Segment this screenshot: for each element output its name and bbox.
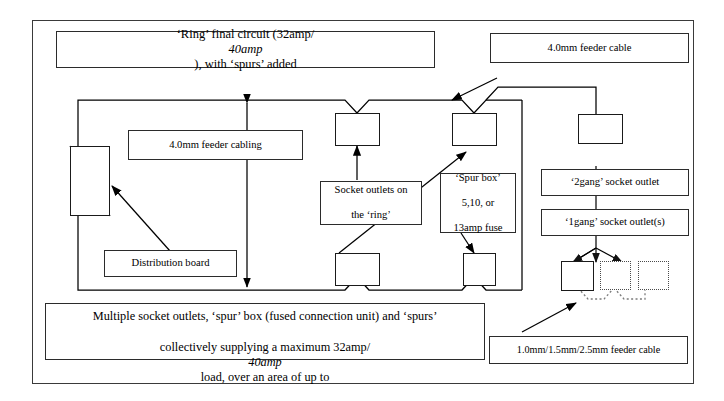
leader-distribution-board	[112, 186, 170, 251]
one-gang-outlet-node[interactable]	[561, 261, 594, 291]
title-text-a: ‘Ring’ final circuit (32amp/	[173, 27, 319, 42]
label-distribution-board: Distribution board	[104, 250, 237, 277]
socket-outlet-node-top-2[interactable]	[452, 113, 497, 146]
label-one-gang-outlet-text: ‘1gang’ socket outlet(s)	[561, 216, 669, 229]
label-one-gang-outlet: ‘1gang’ socket outlet(s)	[541, 209, 689, 236]
label-feeder-cable-top-text: 4.0mm feeder cable	[544, 42, 636, 55]
title-box: ‘Ring’ final circuit (32amp/40amp), with…	[56, 31, 435, 68]
leader-feeder-cable-top	[452, 78, 497, 100]
spur-box-node[interactable]	[463, 253, 496, 286]
label-feeder-cable-top: 4.0mm feeder cable	[490, 33, 689, 63]
label-feeder-cabling-ring: 4.0mm feeder cabling	[128, 130, 303, 160]
label-spur-box-line3: 13amp fuse	[449, 222, 506, 235]
diagram-canvas: ‘Ring’ final circuit (32amp/40amp), with…	[0, 0, 724, 401]
label-feeder-cable-spur-text: 1.0mm/1.5mm/2.5mm feeder cable	[513, 344, 664, 356]
label-feeder-cable-spur: 1.0mm/1.5mm/2.5mm feeder cable	[489, 336, 688, 364]
socket-outlet-node-bottom-1[interactable]	[335, 253, 380, 286]
socket-outlet-node-top-1[interactable]	[335, 113, 380, 146]
title-text-italic: 40amp	[228, 42, 262, 56]
caption-line2-b: load, over an area of up to	[89, 370, 441, 385]
label-distribution-board-text: Distribution board	[128, 257, 214, 270]
spur-1gang-run-b	[596, 248, 622, 262]
two-gang-outlet-node[interactable]	[578, 114, 623, 144]
label-feeder-cabling-ring-text: 4.0mm feeder cabling	[165, 139, 266, 152]
label-socket-outlets-ring-line2: the ‘ring’	[331, 209, 412, 222]
distribution-board-node[interactable]	[70, 146, 110, 216]
label-spur-box: ‘Spur box’ 5,10, or 13amp fuse	[440, 173, 516, 233]
label-two-gang-outlet-text: ‘2gang’ socket outlet	[567, 176, 664, 189]
one-gang-outlet-node-optional-2[interactable]	[638, 261, 669, 290]
label-two-gang-outlet: ‘2gang’ socket outlet	[541, 169, 689, 196]
caption-line2-italic: 40amp	[248, 355, 281, 369]
one-gang-outlet-node-optional-1[interactable]	[600, 261, 631, 290]
label-socket-outlets-ring: Socket outlets on the ‘ring’	[320, 181, 422, 225]
caption-line2-a: collectively supplying a maximum 32amp/	[89, 340, 441, 355]
caption-line1: Multiple socket outlets, ‘spur’ box (fus…	[89, 309, 441, 324]
label-spur-box-line1: ‘Spur box’	[449, 172, 506, 185]
caption-box: Multiple socket outlets, ‘spur’ box (fus…	[45, 303, 485, 360]
label-spur-box-line2: 5,10, or	[449, 197, 506, 210]
label-socket-outlets-ring-line1: Socket outlets on	[331, 184, 412, 197]
title-text-b: ), with ‘spurs’ added	[173, 57, 319, 72]
spur-1gang-run-c	[573, 248, 596, 262]
leader-feeder-cable-spur	[522, 303, 576, 332]
leader-spur-box-lower	[461, 233, 474, 253]
